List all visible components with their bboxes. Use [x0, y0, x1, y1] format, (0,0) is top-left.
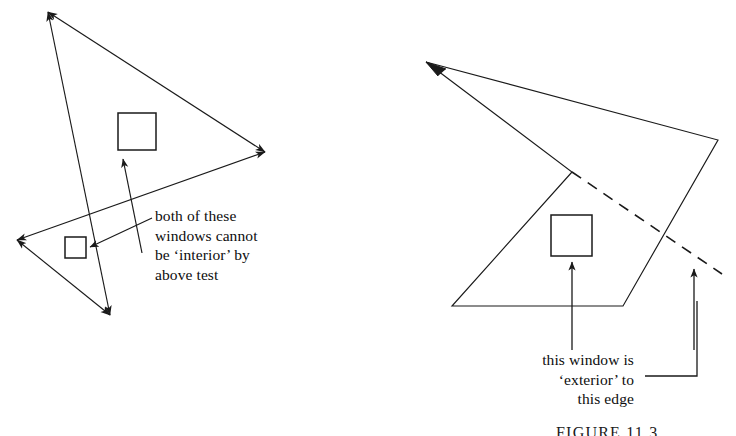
- pointer-to-lower-window: [90, 218, 152, 247]
- left-edge-left-long: [48, 12, 110, 315]
- pointer-to-upper-window: [123, 159, 142, 253]
- elbow-connector-to-edge: [645, 301, 697, 376]
- window-upper: [118, 113, 156, 150]
- window-lower: [65, 237, 86, 258]
- annotation-left-text: both of these windows cannot be ‘interio…: [155, 206, 258, 284]
- right-diagram-group: [426, 62, 722, 376]
- figure-container: both of these windows cannot be ‘interio…: [0, 0, 736, 436]
- left-edge-notch-bottom: [17, 240, 110, 315]
- annotation-right-text: this window is ‘exterior’ to this edge: [470, 350, 634, 409]
- window-interior: [551, 215, 592, 256]
- edge-extension-dashed: [572, 172, 722, 274]
- figure-caption: FIGURE 11.3: [556, 424, 658, 436]
